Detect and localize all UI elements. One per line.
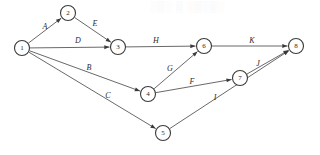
node-2[interactable]: 2 xyxy=(61,6,76,21)
node-5[interactable]: 5 xyxy=(156,126,171,141)
edge-line-D xyxy=(30,47,110,48)
node-label-5: 5 xyxy=(161,129,165,137)
edge-label-D: D xyxy=(74,36,81,45)
node-6[interactable]: 6 xyxy=(197,39,212,54)
edge-label-K: K xyxy=(248,36,255,45)
directed-graph: 12345678 AEDHBCGFIKJ xyxy=(0,0,320,155)
arrowhead-C xyxy=(150,124,155,128)
edge-label-C: C xyxy=(105,91,111,100)
edge-label-G: G xyxy=(167,64,173,73)
node-label-7: 7 xyxy=(238,74,242,82)
node-label-3: 3 xyxy=(116,43,120,51)
edge-label-E: E xyxy=(92,19,98,28)
arrowhead-B xyxy=(134,87,140,91)
node-label-2: 2 xyxy=(66,9,70,17)
node-8[interactable]: 8 xyxy=(289,39,304,54)
edge-label-I: I xyxy=(213,93,217,102)
edge-label-J: J xyxy=(256,59,260,68)
edge-line-B xyxy=(30,51,141,91)
arrowhead-K xyxy=(282,44,287,48)
edge-line-I xyxy=(170,51,289,129)
arrowhead-A xyxy=(56,18,61,23)
node-1[interactable]: 1 xyxy=(15,41,30,56)
edge-label-A: A xyxy=(42,22,48,31)
arrowhead-D xyxy=(104,45,109,49)
arrowhead-H xyxy=(190,44,195,48)
arrowhead-E xyxy=(106,38,111,43)
node-3[interactable]: 3 xyxy=(111,40,126,55)
edge-line-J xyxy=(247,50,289,74)
node-4[interactable]: 4 xyxy=(141,87,156,102)
nodes-layer: 12345678 xyxy=(15,6,304,141)
edges-layer xyxy=(28,17,289,128)
node-label-8: 8 xyxy=(294,42,298,50)
edge-label-H: H xyxy=(152,36,160,45)
edge-line-H xyxy=(126,46,196,47)
node-label-4: 4 xyxy=(146,90,150,98)
node-7[interactable]: 7 xyxy=(233,71,248,86)
node-label-6: 6 xyxy=(202,42,206,50)
edge-label-B: B xyxy=(87,63,92,72)
diagram-canvas: ░▒░ ▒ ░▒░▒░ 12345678 AEDHBCGFIKJ xyxy=(0,0,320,155)
edge-label-F: F xyxy=(189,77,195,86)
arrowhead-F xyxy=(226,78,231,82)
node-label-1: 1 xyxy=(20,44,24,52)
